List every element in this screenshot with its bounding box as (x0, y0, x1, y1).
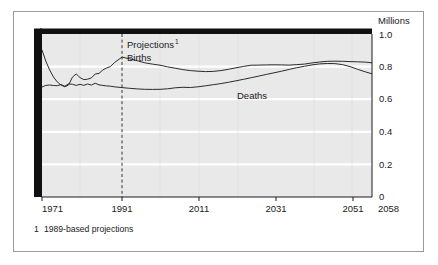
footnote-marker: 1 (34, 224, 39, 234)
y-tick-label-3: 0.6 (379, 93, 392, 104)
births-series-label: Births (127, 52, 152, 63)
plot-top-shadow-band (40, 29, 372, 35)
y-tick-label-5: 1.0 (379, 29, 392, 40)
x-tick-label-4: 2051 (342, 203, 363, 214)
projections-label-superscript: 1 (175, 38, 179, 45)
x-tick-label-2: 2011 (189, 203, 209, 214)
x-tick-label-0: 1971 (42, 203, 63, 214)
y-axis-unit-label: Millions (378, 15, 410, 26)
x-tick-label-1: 1991 (111, 203, 132, 214)
y-tick-label-2: 0.4 (379, 126, 392, 137)
x-tick-label-3: 2031 (265, 203, 286, 214)
x-tick-label-5: 2058 (378, 203, 399, 214)
y-tick-label-4: 0.8 (379, 61, 392, 72)
y-tick-label-1: 0.2 (379, 159, 392, 170)
footnote-text: 1989-based projections (44, 224, 133, 234)
population-births-deaths-chart: 1971 1991 2011 2031 2051 2058 0 0.2 0.4 … (0, 0, 438, 265)
deaths-series-label: Deaths (237, 90, 267, 101)
y-tick-label-0: 0 (379, 191, 384, 202)
plot-background (42, 34, 372, 197)
projections-label: Projections (127, 39, 174, 50)
plot-left-shadow-band (34, 29, 42, 198)
figure-container: 1971 1991 2011 2031 2051 2058 0 0.2 0.4 … (0, 0, 438, 265)
x-axis-ticks (42, 197, 353, 201)
